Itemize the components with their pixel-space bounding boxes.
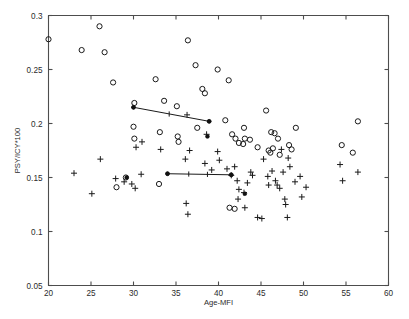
data-point-filled xyxy=(206,135,210,139)
x-tick-label: 55 xyxy=(341,289,351,298)
data-point-filled xyxy=(243,192,247,196)
y-tick-label: 0.2 xyxy=(31,120,43,129)
x-tick-label: 35 xyxy=(171,289,181,298)
scatter-plot-svg: 202530354045505560 0.050.10.150.20.250.3… xyxy=(0,0,409,319)
y-tick-label: 0.05 xyxy=(27,282,43,291)
x-tick-label: 40 xyxy=(214,289,224,298)
y-tick-label: 0.3 xyxy=(31,12,43,21)
x-tick-label: 60 xyxy=(384,289,394,298)
y-tick-label: 0.25 xyxy=(27,66,43,75)
trend-line-endpoint xyxy=(207,119,211,123)
trend-line-endpoint xyxy=(132,105,136,109)
x-tick-label: 20 xyxy=(44,289,54,298)
y-axis-label: PSY/ICY*100 xyxy=(13,128,22,174)
data-point-filled xyxy=(125,176,129,180)
x-tick-label: 25 xyxy=(86,289,96,298)
trend-line-endpoint xyxy=(229,173,233,177)
trend-line-endpoint xyxy=(166,172,170,176)
chart-figure: 202530354045505560 0.050.10.150.20.250.3… xyxy=(0,0,409,319)
y-tick-label: 0.15 xyxy=(27,174,43,183)
plot-background xyxy=(0,0,409,319)
x-tick-label: 45 xyxy=(256,289,266,298)
x-tick-label: 30 xyxy=(129,289,139,298)
x-axis-label: Age-MFI xyxy=(204,298,233,307)
y-tick-label: 0.1 xyxy=(31,228,43,237)
x-tick-label: 50 xyxy=(299,289,309,298)
